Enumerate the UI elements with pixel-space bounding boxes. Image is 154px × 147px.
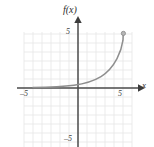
curve-endpoint-dot <box>121 31 125 35</box>
graph-figure: f(x) x –5 5 5 –5 <box>0 0 154 147</box>
y-tick-label-positive-5: 5 <box>66 27 70 36</box>
x-tick-label-positive-5: 5 <box>118 89 122 98</box>
y-axis-arrowhead <box>74 16 81 23</box>
y-tick-label-negative-5: –5 <box>64 134 72 143</box>
function-label: f(x) <box>63 4 77 15</box>
coordinate-plane <box>0 0 154 147</box>
x-tick-label-negative-5: –5 <box>20 89 28 98</box>
x-axis-label: x <box>142 80 146 90</box>
